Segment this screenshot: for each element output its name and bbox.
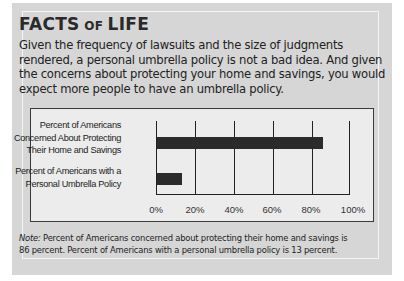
- title-word-life: LIFE: [108, 14, 150, 34]
- x-tick-label: 60%: [262, 204, 281, 215]
- x-tick-label: 100%: [341, 204, 365, 215]
- panel-title: FACTS OF LIFE: [19, 14, 149, 36]
- category-label-umbrella: Percent of Americans with a Personal Umb…: [15, 165, 121, 190]
- note-line-1: Note: Percent of Americans concerned abo…: [19, 232, 384, 244]
- gridline-100: [349, 121, 350, 194]
- category-label-line: Concerned About Protecting: [14, 132, 121, 145]
- intro-line: the concerns about protecting your home …: [19, 67, 389, 82]
- bar-umbrella: [157, 173, 182, 185]
- title-word-facts: FACTS: [19, 14, 80, 34]
- note-text: Percent of Americans concerned about pro…: [41, 233, 348, 243]
- bar-chart: Percent of Americans Concerned About Pro…: [30, 108, 374, 222]
- x-tick-label: 0%: [149, 204, 163, 215]
- plot-area: [156, 121, 350, 195]
- category-label-concerned: Percent of Americans Concerned About Pro…: [14, 119, 121, 157]
- category-label-line: Personal Umbrella Policy: [15, 178, 121, 191]
- note-line-2: 86 percent. Percent of Americans with a …: [19, 244, 384, 256]
- bar-concerned: [157, 137, 323, 149]
- title-word-of: OF: [80, 19, 108, 33]
- title-of-text: OF: [84, 19, 103, 33]
- gridline-80: [312, 121, 313, 194]
- x-tick-label: 20%: [185, 204, 204, 215]
- chart-note: Note: Percent of Americans concerned abo…: [19, 232, 384, 256]
- intro-paragraph: Given the frequency of lawsuits and the …: [19, 38, 389, 96]
- gridline-60: [273, 121, 274, 194]
- x-tick-label: 80%: [301, 204, 320, 215]
- intro-line: Given the frequency of lawsuits and the …: [19, 38, 389, 53]
- gridline-20: [195, 121, 196, 194]
- gridline-40: [234, 121, 235, 194]
- note-label: Note:: [19, 233, 41, 243]
- category-label-line: Percent of Americans with a: [15, 165, 121, 178]
- category-label-line: Percent of Americans: [14, 119, 121, 132]
- category-label-line: Their Home and Savings: [14, 144, 121, 157]
- x-tick-label: 40%: [224, 204, 243, 215]
- intro-line: rendered, a personal umbrella policy is …: [19, 53, 389, 68]
- intro-line: expect more people to have an umbrella p…: [19, 82, 389, 97]
